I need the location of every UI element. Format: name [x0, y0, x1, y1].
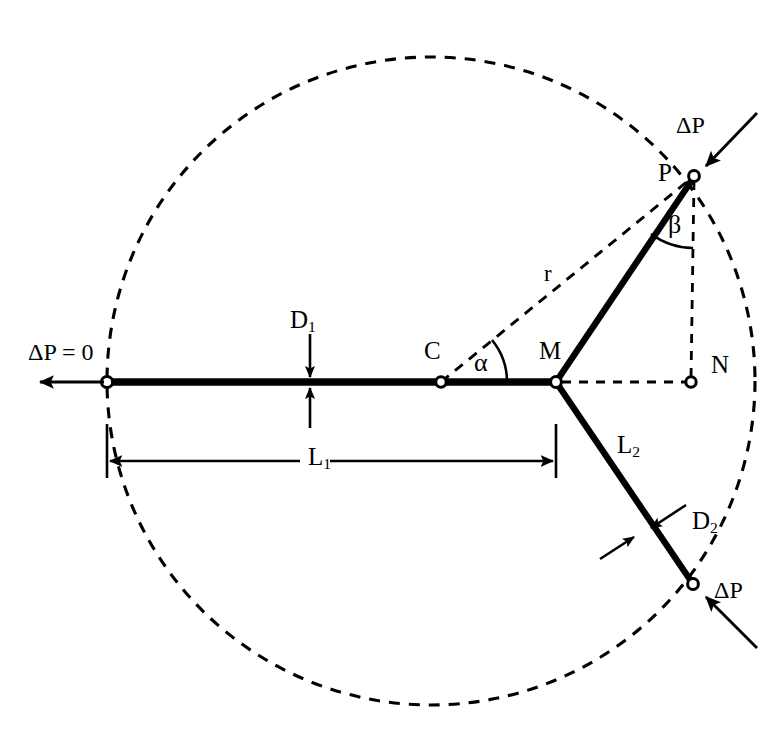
node-point-m	[551, 377, 562, 388]
label-point-n: N	[711, 352, 729, 377]
node-point-p	[689, 171, 700, 182]
label-diameter-1: D1	[290, 307, 316, 335]
vertical-construction-p-to-n	[691, 181, 694, 378]
label-length-1-base: L	[308, 443, 323, 470]
label-point-m: M	[539, 338, 561, 363]
diameter-2-arrow-upper	[651, 505, 686, 528]
delta-p-top-arrow	[706, 113, 757, 166]
delta-p-bottom-arrow	[706, 597, 757, 648]
label-diameter-2-base: D	[692, 507, 710, 534]
label-angle-alpha: α	[474, 350, 488, 376]
label-point-p: P	[658, 160, 672, 185]
label-diameter-2-sub: 2	[710, 519, 718, 536]
label-delta-p-bottom: ΔP	[714, 578, 743, 602]
label-angle-beta: β	[668, 212, 681, 238]
diameter-2-arrow-lower	[600, 537, 634, 559]
angle-arc-alpha	[492, 340, 507, 382]
label-delta-p-top: ΔP	[676, 113, 705, 137]
label-length-1: L1	[308, 444, 331, 472]
label-length-1-sub: 1	[323, 455, 331, 472]
label-delta-p-zero: ΔP = 0	[28, 340, 93, 364]
label-length-2-sub: 2	[632, 443, 640, 460]
label-diameter-2: D2	[692, 508, 718, 536]
label-diameter-1-sub: 1	[308, 318, 316, 335]
label-length-2: L2	[617, 432, 640, 460]
label-diameter-1-base: D	[290, 306, 308, 333]
label-length-2-base: L	[617, 431, 632, 458]
figure-canvas: ΔP = 0 ΔP ΔP P C M N r α β D1 D2 L1 L2	[0, 0, 783, 743]
label-point-c: C	[424, 338, 441, 363]
diagram-svg	[0, 0, 783, 743]
node-outlet-lower	[688, 579, 699, 590]
lower-branch-segment	[556, 382, 693, 584]
node-point-n	[686, 377, 696, 387]
label-radius-r: r	[544, 262, 552, 285]
upper-branch-segment	[556, 177, 694, 382]
node-point-c	[436, 377, 446, 387]
